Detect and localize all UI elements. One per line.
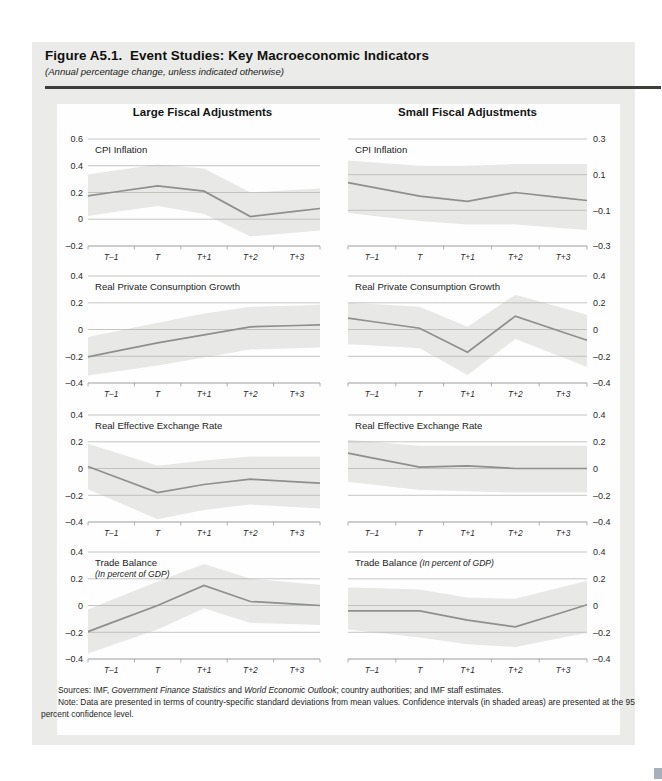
y-tick-label: –0.2 (65, 241, 83, 251)
x-tick-label: T+2 (243, 252, 258, 262)
x-tick-label: T–1 (104, 665, 118, 675)
figure-title: Figure A5.1. Event Studies: Key Macroeco… (45, 48, 429, 63)
chart-cpi-inflation-large: 0.60.40.20–0.2T–1TT+1T+2T+3CPI Inflation (52, 138, 332, 270)
y-tick-label: 0.4 (70, 161, 83, 171)
chart-title: Trade Balance (In percent of GDP) (355, 557, 494, 568)
chart-cpi-inflation-small: 0.30.1–0.1–0.3T–1TT+1T+2T+3CPI Inflation (344, 138, 624, 270)
column-header-large-fiscal-adjustments: Large Fiscal Adjustments (88, 106, 317, 122)
chart-title: Real Private Consumption Growth (95, 281, 240, 292)
y-tick-label: –0.2 (593, 352, 611, 362)
y-tick-label: 0.2 (593, 574, 606, 584)
x-tick-label: T (155, 252, 161, 262)
y-tick-label: –0.4 (65, 517, 83, 527)
chart-title: Real Effective Exchange Rate (95, 420, 222, 431)
y-tick-label: –0.4 (593, 378, 611, 388)
y-tick-label: –0.1 (593, 206, 611, 216)
y-tick-label: 0.1 (593, 170, 606, 180)
y-tick-label: –0.4 (593, 517, 611, 527)
confidence-band (88, 305, 320, 376)
y-tick-label: 0.4 (70, 271, 83, 281)
x-tick-label: T+1 (197, 665, 212, 675)
y-tick-label: 0.2 (593, 437, 606, 447)
x-tick-label: T+3 (289, 389, 304, 399)
figure-footnotes: Sources: IMF, Government Finance Statist… (41, 685, 638, 720)
footnote-italic-text: Government Finance Statistics (112, 685, 226, 695)
x-tick-label: T+3 (289, 252, 304, 262)
confidence-band (348, 160, 587, 230)
figure-header: Figure A5.1. Event Studies: Key Macroeco… (45, 48, 429, 77)
x-tick-label: T–1 (104, 528, 118, 538)
confidence-band (348, 581, 587, 647)
x-tick-label: T+2 (508, 528, 523, 538)
column-header-small-fiscal-adjustments: Small Fiscal Adjustments (348, 106, 587, 122)
chart-trade-balance-small: 0.40.20–0.2–0.4T–1TT+1T+2T+3Trade Balanc… (344, 551, 624, 683)
x-tick-label: T+3 (289, 528, 304, 538)
x-tick-label: T–1 (365, 665, 379, 675)
y-tick-label: 0.6 (70, 134, 83, 144)
x-tick-label: T+1 (460, 252, 475, 262)
page-corner-accent (654, 768, 662, 779)
y-tick-label: 0.2 (70, 574, 83, 584)
x-tick-label: T+2 (508, 665, 523, 675)
y-tick-label: 0.2 (70, 437, 83, 447)
chart-title: CPI Inflation (355, 144, 407, 155)
x-tick-label: T+1 (460, 665, 475, 675)
y-tick-label: –0.4 (65, 378, 83, 388)
chart-title: Real Effective Exchange Rate (355, 420, 482, 431)
y-tick-label: 0.4 (593, 271, 606, 281)
chart-subtitle: (In percent of GDP) (95, 569, 170, 579)
x-tick-label: T+2 (243, 528, 258, 538)
x-tick-label: T+1 (197, 389, 212, 399)
footnote-text: and (226, 685, 245, 695)
chart-title: CPI Inflation (95, 144, 147, 155)
chart-real-private-consumption-growth-small: 0.40.20–0.2–0.4T–1TT+1T+2T+3Real Private… (344, 275, 624, 407)
y-tick-label: 0.4 (593, 547, 606, 557)
x-tick-label: T+1 (460, 528, 475, 538)
y-tick-label: –0.2 (65, 352, 83, 362)
footnote-note: Note: Data are presented in terms of cou… (41, 697, 638, 721)
y-tick-label: 0.3 (593, 134, 606, 144)
y-tick-label: 0 (593, 464, 598, 474)
x-tick-label: T+2 (243, 665, 258, 675)
chart-subtitle: (In percent of GDP) (417, 558, 494, 568)
x-tick-label: T+1 (197, 252, 212, 262)
x-tick-label: T–1 (365, 528, 379, 538)
x-tick-label: T+3 (556, 389, 571, 399)
chart-panel: Large Fiscal Adjustments Small Fiscal Ad… (57, 104, 620, 735)
x-tick-label: T (417, 252, 423, 262)
footnote-text: Sources: IMF, (58, 685, 112, 695)
y-tick-label: –0.3 (593, 241, 611, 251)
y-tick-label: 0.4 (593, 410, 606, 420)
y-tick-label: –0.2 (65, 628, 83, 638)
x-tick-label: T+2 (243, 389, 258, 399)
y-tick-label: 0 (78, 601, 83, 611)
x-tick-label: T (155, 665, 161, 675)
chart-trade-balance-large: 0.40.20–0.2–0.4T–1TT+1T+2T+3Trade Balanc… (52, 551, 332, 683)
footnote-sources: Sources: IMF, Government Finance Statist… (41, 685, 638, 697)
x-tick-label: T+2 (508, 252, 523, 262)
y-tick-label: –0.4 (593, 654, 611, 664)
y-tick-label: 0.2 (70, 188, 83, 198)
figure-subtitle: (Annual percentage change, unless indica… (45, 66, 429, 77)
x-tick-label: T+3 (556, 528, 571, 538)
chart-title: Trade Balance (95, 557, 157, 568)
footnote-text: ; country authorities; and IMF staff est… (336, 685, 503, 695)
x-tick-label: T+2 (508, 389, 523, 399)
chart-real-private-consumption-growth-large: 0.40.20–0.2–0.4T–1TT+1T+2T+3Real Private… (52, 275, 332, 407)
document-page: Figure A5.1. Event Studies: Key Macroeco… (0, 0, 662, 781)
y-tick-label: 0.4 (70, 547, 83, 557)
x-tick-label: T–1 (104, 252, 118, 262)
x-tick-label: T+3 (556, 665, 571, 675)
x-tick-label: T–1 (365, 252, 379, 262)
y-tick-label: –0.2 (593, 628, 611, 638)
chart-real-effective-exchange-rate-small: 0.40.20–0.2–0.4T–1TT+1T+2T+3Real Effecti… (344, 414, 624, 546)
y-tick-label: 0.4 (70, 410, 83, 420)
header-rule (45, 86, 661, 89)
y-tick-label: –0.2 (65, 491, 83, 501)
x-tick-label: T (417, 528, 423, 538)
y-tick-label: –0.2 (593, 491, 611, 501)
chart-real-effective-exchange-rate-large: 0.40.20–0.2–0.4T–1TT+1T+2T+3Real Effecti… (52, 414, 332, 546)
y-tick-label: 0 (593, 325, 598, 335)
x-tick-label: T (417, 665, 423, 675)
x-tick-label: T (417, 389, 423, 399)
